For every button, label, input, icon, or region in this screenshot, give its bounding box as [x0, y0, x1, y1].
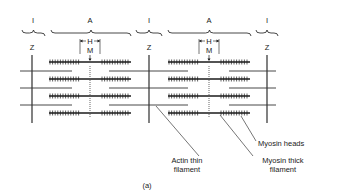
pointer-myosin-heads — [241, 116, 256, 141]
band-braces — [22, 30, 278, 36]
arrowhead-icon — [80, 40, 83, 43]
label-m-line: M — [87, 46, 93, 55]
arrowhead-icon — [217, 40, 220, 43]
callout-myosin-thick-filament-1: Myosin thick — [262, 156, 304, 165]
arrowhead-icon — [89, 59, 92, 62]
callout-actin-thin-filament-2: filament — [174, 165, 201, 174]
callout-actin-thin-filament-1: Actin thin — [172, 156, 203, 165]
label-z-line: Z — [147, 43, 152, 52]
brace-i-band — [256, 30, 278, 36]
arrowhead-icon — [98, 40, 101, 43]
band-labels: IAIAIZZZHMHM — [30, 16, 270, 55]
label-a-band: A — [87, 16, 92, 25]
label-h-zone: H — [206, 37, 211, 46]
figure-caption: (a) — [142, 181, 152, 190]
label-i-band: I — [148, 16, 150, 25]
label-a-band: A — [206, 16, 211, 25]
label-i-band: I — [266, 16, 268, 25]
pointer-myosin-thick — [220, 115, 253, 156]
callout-myosin-thick-filament-2: filament — [270, 165, 297, 174]
label-m-line: M — [206, 46, 212, 55]
actin-thin-filaments — [20, 71, 276, 105]
sarcomere-diagram: IAIAIZZZHMHM Myosin heads Actin thin fil… — [0, 0, 337, 195]
callout-myosin-heads: Myosin heads — [258, 139, 305, 148]
brace-i-band — [22, 30, 45, 36]
arrowhead-icon — [199, 40, 202, 43]
label-i-band: I — [32, 16, 34, 25]
label-z-line: Z — [265, 43, 270, 52]
arrowhead-icon — [208, 59, 211, 62]
label-z-line: Z — [30, 43, 35, 52]
label-h-zone: H — [87, 37, 92, 46]
brace-a-band — [168, 30, 251, 36]
brace-i-band — [136, 30, 162, 36]
brace-a-band — [51, 30, 131, 36]
